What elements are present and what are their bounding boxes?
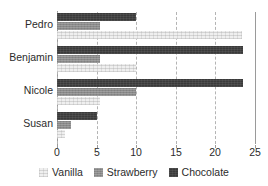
bar-benjamin-chocolate — [57, 46, 243, 54]
legend-label-vanilla: Vanilla — [52, 166, 83, 178]
bar-group-nicole — [57, 78, 255, 111]
bar-chart: Pedro Benjamin Nicole Susan — [0, 0, 268, 186]
bar-group-benjamin — [57, 45, 255, 78]
legend-swatch-vanilla-icon — [39, 168, 48, 177]
category-label-nicole: Nicole — [1, 84, 53, 96]
bar-benjamin-strawberry — [57, 55, 100, 63]
category-label-susan: Susan — [1, 117, 53, 129]
x-tick-label-25: 25 — [249, 146, 261, 158]
x-axis-tick-labels: 0 5 10 15 20 25 — [0, 146, 268, 162]
bar-benjamin-vanilla — [57, 64, 136, 72]
category-label-benjamin: Benjamin — [1, 51, 53, 63]
legend-label-chocolate: Chocolate — [182, 166, 229, 178]
y-axis-category-labels: Pedro Benjamin Nicole Susan — [0, 12, 53, 144]
bar-susan-chocolate — [57, 112, 97, 120]
x-tick-label-5: 5 — [94, 146, 100, 158]
chart-legend: Vanilla Strawberry Chocolate — [0, 166, 268, 178]
x-tick-label-10: 10 — [130, 146, 142, 158]
bar-nicole-chocolate — [57, 79, 243, 87]
bar-nicole-vanilla — [57, 97, 100, 105]
bar-pedro-chocolate — [57, 13, 136, 21]
plot-area — [57, 12, 255, 144]
legend-item-chocolate[interactable]: Chocolate — [169, 166, 229, 178]
x-tick-label-20: 20 — [209, 146, 221, 158]
legend-swatch-strawberry-icon — [94, 168, 103, 177]
category-label-pedro: Pedro — [1, 18, 53, 30]
legend-swatch-chocolate-icon — [169, 168, 178, 177]
legend-label-strawberry: Strawberry — [107, 166, 158, 178]
bar-pedro-strawberry — [57, 22, 100, 30]
legend-item-vanilla[interactable]: Vanilla — [39, 166, 83, 178]
bar-group-susan — [57, 111, 255, 144]
bar-pedro-vanilla — [57, 31, 242, 39]
bar-susan-vanilla — [57, 130, 65, 138]
bar-susan-strawberry — [57, 121, 71, 129]
x-tick-label-15: 15 — [170, 146, 182, 158]
legend-item-strawberry[interactable]: Strawberry — [94, 166, 158, 178]
gridline-25 — [255, 12, 257, 144]
bar-group-pedro — [57, 12, 255, 45]
bar-nicole-strawberry — [57, 88, 136, 96]
x-tick-label-0: 0 — [54, 146, 60, 158]
